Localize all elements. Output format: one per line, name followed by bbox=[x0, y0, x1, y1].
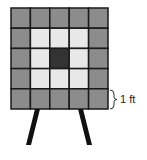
grid-cell-outer bbox=[89, 48, 108, 68]
grid-cell-inner bbox=[30, 28, 49, 48]
easel-leg-right bbox=[78, 109, 92, 145]
grid-cell-outer bbox=[69, 8, 88, 28]
brace-icon bbox=[110, 90, 117, 109]
grid-cell-outer bbox=[11, 69, 30, 89]
grid-cell-outer bbox=[89, 69, 108, 89]
grid-cell-outer bbox=[30, 89, 49, 109]
square-grid bbox=[11, 8, 108, 109]
grid-cell-center bbox=[50, 48, 69, 68]
grid-cell-inner bbox=[30, 48, 49, 68]
grid-cell-outer bbox=[11, 89, 30, 109]
grid-cell-outer bbox=[11, 48, 30, 68]
easel-leg-left bbox=[26, 109, 40, 145]
grid-cell-outer bbox=[89, 8, 108, 28]
grid-cell-outer bbox=[69, 89, 88, 109]
grid-cell-outer bbox=[50, 89, 69, 109]
grid-cell-outer bbox=[30, 8, 49, 28]
easel-legs bbox=[26, 109, 92, 145]
grid-cell-outer bbox=[11, 8, 30, 28]
grid-cell-inner bbox=[69, 28, 88, 48]
grid-cell-inner bbox=[69, 48, 88, 68]
grid-cell-inner bbox=[50, 28, 69, 48]
grid-cell-inner bbox=[69, 69, 88, 89]
grid-cell-outer bbox=[11, 28, 30, 48]
grid-cell-inner bbox=[30, 69, 49, 89]
easel-grid-diagram: 1 ft bbox=[0, 0, 147, 160]
grid-cell-inner bbox=[50, 69, 69, 89]
dimension-label: 1 ft bbox=[120, 93, 135, 105]
grid-cell-outer bbox=[89, 89, 108, 109]
grid-cell-outer bbox=[50, 8, 69, 28]
grid-cell-outer bbox=[89, 28, 108, 48]
